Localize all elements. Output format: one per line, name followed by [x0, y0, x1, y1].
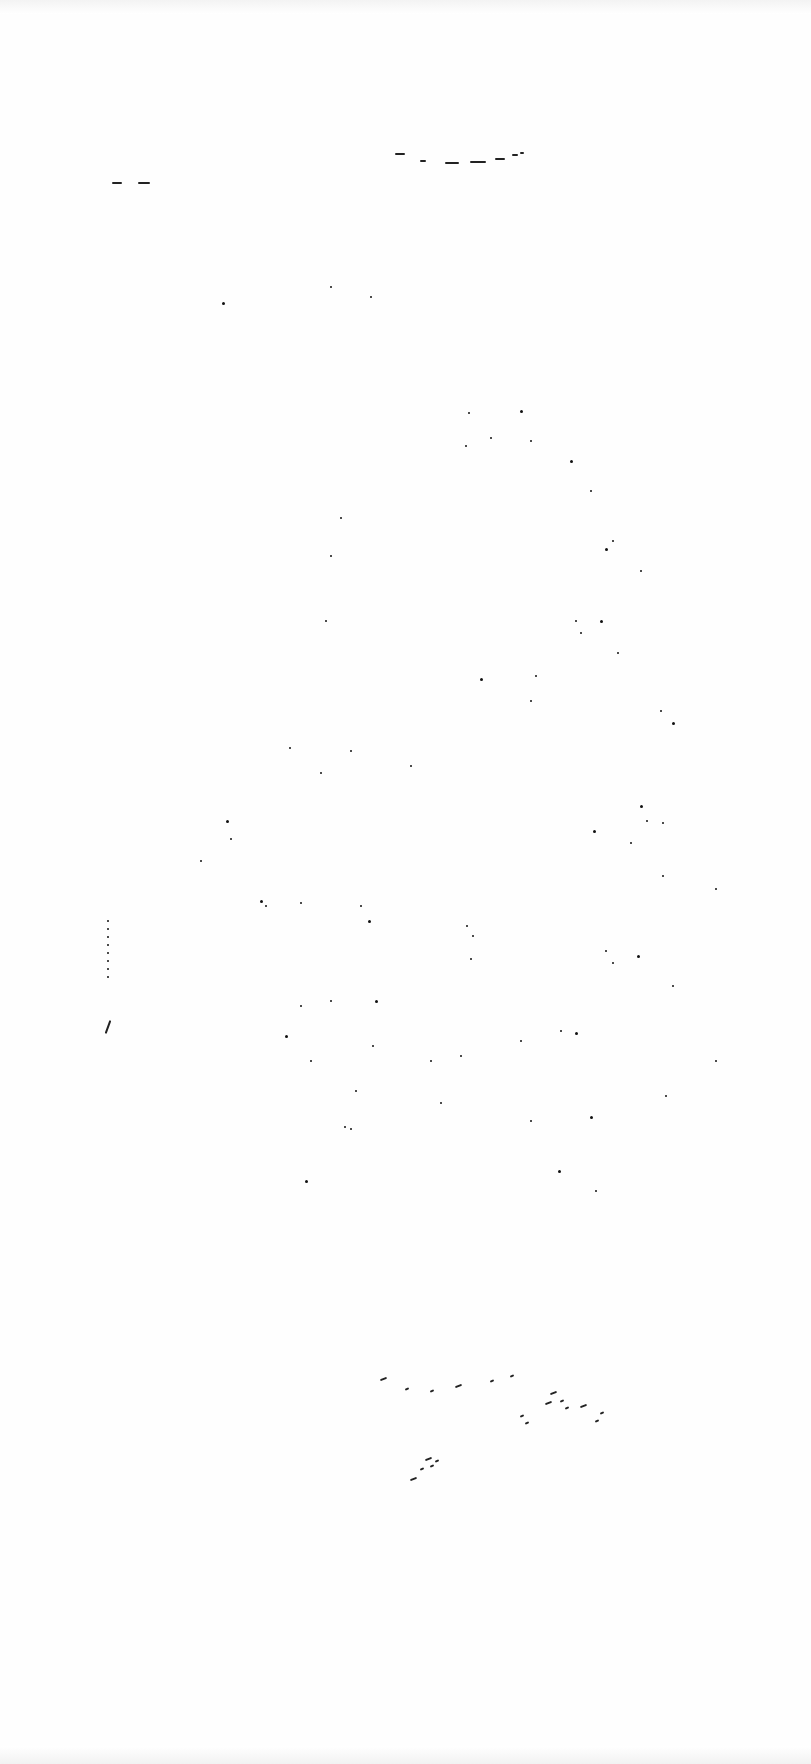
scatter-speck: [715, 888, 717, 890]
scatter-speck: [440, 1102, 442, 1104]
bottom-stroke-mark: [490, 1379, 494, 1382]
scatter-speck: [530, 700, 532, 702]
scatter-speck: [410, 765, 412, 767]
scatter-speck: [344, 1126, 346, 1128]
scatter-speck: [660, 710, 662, 712]
scatter-speck: [355, 1090, 357, 1092]
scatter-speck: [200, 860, 202, 862]
margin-speck: [107, 952, 109, 954]
scatter-speck: [230, 838, 232, 840]
scatter-speck: [595, 1190, 597, 1192]
bottom-stroke-mark: [510, 1374, 514, 1377]
margin-speck: [107, 976, 109, 978]
top-edge-shadow: [0, 0, 811, 14]
header-arc-mark: [520, 152, 524, 154]
scatter-speck: [370, 296, 372, 298]
bottom-stroke-mark: [565, 1406, 569, 1409]
scatter-speck: [662, 822, 664, 824]
margin-speck: [107, 944, 109, 946]
scatter-speck: [330, 286, 332, 288]
scatter-speck: [375, 1000, 378, 1003]
scatter-speck: [617, 652, 619, 654]
scatter-speck: [558, 1170, 561, 1173]
scatter-speck: [460, 1055, 462, 1057]
bottom-stroke-mark: [380, 1377, 387, 1381]
scatter-speck: [560, 1030, 562, 1032]
scatter-speck: [310, 1060, 312, 1062]
scatter-speck: [300, 1005, 302, 1007]
scatter-speck: [265, 905, 267, 907]
scatter-speck: [580, 632, 582, 634]
scanned-page: [0, 0, 811, 1764]
scatter-speck: [665, 1095, 667, 1097]
header-arc-mark: [512, 154, 518, 156]
scatter-speck: [350, 1128, 352, 1130]
scatter-speck: [465, 445, 467, 447]
scatter-speck: [430, 1060, 432, 1062]
bottom-stroke-mark: [550, 1391, 557, 1395]
scatter-speck: [368, 920, 371, 923]
bottom-stroke-mark: [410, 1477, 417, 1481]
scatter-speck: [226, 820, 229, 823]
header-arc-mark: [420, 160, 426, 162]
header-arc-mark: [495, 158, 505, 160]
scatter-speck: [575, 620, 577, 622]
scatter-speck: [590, 1116, 593, 1119]
scatter-speck: [535, 675, 537, 677]
bottom-stroke-mark: [580, 1404, 587, 1408]
scatter-speck: [605, 950, 607, 952]
scatter-speck: [360, 905, 362, 907]
scatter-speck: [470, 958, 472, 960]
scatter-speck: [662, 875, 664, 877]
scatter-speck: [466, 925, 468, 927]
scatter-speck: [472, 935, 474, 937]
bottom-stroke-mark: [560, 1399, 564, 1402]
bottom-edge-shadow: [0, 1746, 811, 1764]
scatter-speck: [640, 805, 643, 808]
bottom-stroke-mark: [525, 1421, 529, 1424]
scatter-speck: [672, 722, 675, 725]
scatter-speck: [340, 517, 342, 519]
scatter-speck: [520, 410, 523, 413]
scatter-speck: [520, 1040, 522, 1042]
bottom-stroke-mark: [595, 1419, 599, 1422]
bottom-stroke-mark: [425, 1457, 432, 1461]
bottom-stroke-mark: [520, 1414, 524, 1417]
scatter-speck: [285, 1035, 288, 1038]
scatter-speck: [330, 1000, 332, 1002]
header-arc-mark: [395, 153, 405, 155]
scatter-speck: [260, 900, 263, 903]
bottom-stroke-mark: [455, 1384, 462, 1388]
header-dash-mark: [112, 182, 122, 184]
bottom-stroke-mark: [420, 1467, 424, 1470]
scatter-speck: [222, 302, 225, 305]
scatter-speck: [530, 440, 532, 442]
scatter-speck: [640, 570, 642, 572]
scatter-speck: [630, 842, 632, 844]
scatter-speck: [320, 772, 322, 774]
scatter-speck: [330, 555, 332, 557]
bottom-stroke-mark: [435, 1459, 439, 1462]
header-dash-mark: [138, 182, 150, 184]
scatter-speck: [305, 1180, 308, 1183]
bottom-stroke-mark: [545, 1401, 552, 1405]
scatter-speck: [715, 1060, 717, 1062]
margin-slash-mark: [105, 1020, 112, 1034]
scatter-speck: [480, 678, 483, 681]
scatter-speck: [593, 830, 596, 833]
margin-speck: [107, 928, 109, 930]
scatter-speck: [289, 747, 291, 749]
margin-speck: [107, 936, 109, 938]
bottom-stroke-mark: [430, 1464, 434, 1467]
scatter-speck: [570, 460, 573, 463]
scatter-speck: [646, 820, 648, 822]
scatter-speck: [590, 490, 592, 492]
scatter-speck: [672, 985, 674, 987]
scatter-speck: [300, 902, 302, 904]
margin-speck: [107, 960, 109, 962]
scatter-speck: [612, 540, 614, 542]
scatter-speck: [350, 750, 352, 752]
scatter-speck: [612, 962, 614, 964]
bottom-stroke-mark: [405, 1387, 409, 1390]
margin-speck: [107, 968, 109, 970]
